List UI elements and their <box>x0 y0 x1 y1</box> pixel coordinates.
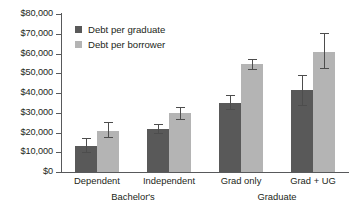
error-bar-cap-lower <box>104 137 113 138</box>
bar <box>313 52 335 172</box>
bar <box>241 64 263 172</box>
error-bar-cap-upper <box>226 95 235 96</box>
legend-item: Debt per graduate <box>75 23 165 36</box>
x-axis-group-label: Bachelor's <box>111 192 154 202</box>
error-bar-cap-upper <box>298 75 307 76</box>
x-axis-category-label: Independent <box>143 176 195 186</box>
error-bar <box>86 138 87 152</box>
chart-legend: Debt per graduateDebt per borrower <box>75 23 165 53</box>
error-bar-cap-lower <box>82 152 91 153</box>
legend-label: Debt per graduate <box>88 25 165 35</box>
y-axis-label: $70,000 <box>20 29 53 38</box>
bar <box>147 129 169 172</box>
legend-label: Debt per borrower <box>88 40 165 50</box>
error-bar <box>252 59 253 69</box>
x-axis-category-label: Grad + UG <box>290 176 336 186</box>
y-axis-tick <box>56 172 61 173</box>
error-bar-cap-upper <box>154 124 163 125</box>
error-bar-cap-upper <box>248 59 257 60</box>
error-bar <box>302 75 303 105</box>
x-axis-group-label: Graduate <box>257 192 296 202</box>
error-bar-cap-upper <box>104 122 113 123</box>
error-bar-cap-upper <box>320 33 329 34</box>
y-axis-label: $10,000 <box>20 148 53 157</box>
y-axis-label: $0 <box>43 167 53 176</box>
x-axis-category-label: Grad only <box>221 176 262 186</box>
bar <box>169 113 191 172</box>
error-bar-cap-upper <box>176 107 185 108</box>
error-bar-cap-upper <box>82 138 91 139</box>
error-bar-cap-lower <box>226 109 235 110</box>
legend-item: Debt per borrower <box>75 38 165 51</box>
error-bar <box>108 122 109 138</box>
y-axis-label: $50,000 <box>20 69 53 78</box>
error-bar-cap-lower <box>154 133 163 134</box>
x-axis-category-label: Dependent <box>74 176 120 186</box>
error-bar-cap-lower <box>320 68 329 69</box>
y-axis-label: $20,000 <box>20 128 53 137</box>
x-axis-line <box>61 172 349 173</box>
error-bar <box>324 33 325 69</box>
error-bar <box>158 124 159 134</box>
y-axis-label: $40,000 <box>20 88 53 97</box>
error-bar-cap-lower <box>176 119 185 120</box>
error-bar <box>180 107 181 119</box>
y-axis-label: $60,000 <box>20 49 53 58</box>
legend-swatch-icon <box>75 41 82 48</box>
error-bar-cap-lower <box>248 69 257 70</box>
bar-chart: $0$10,000$20,000$30,000$40,000$50,000$60… <box>0 0 355 214</box>
y-axis-label: $80,000 <box>20 9 53 18</box>
legend-swatch-icon <box>75 26 82 33</box>
bar <box>219 103 241 172</box>
error-bar <box>230 95 231 109</box>
y-axis-label: $30,000 <box>20 108 53 117</box>
error-bar-cap-lower <box>298 105 307 106</box>
